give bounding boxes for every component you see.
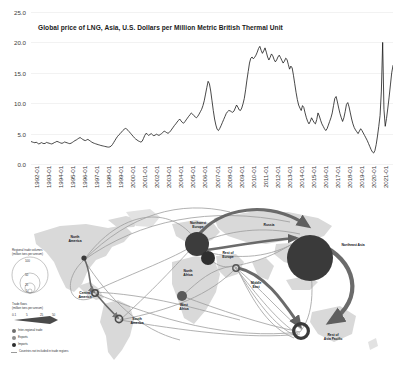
- y-axis-tick: 15.0: [14, 69, 26, 76]
- x-axis-tick: 2007-01: [214, 166, 221, 188]
- legend-flow-scale-1: 5: [26, 314, 28, 318]
- legend-key-imports: Imports: [18, 343, 78, 347]
- x-axis-tick: 1992-01: [33, 166, 40, 188]
- map-label-middle-east: Middle East: [244, 282, 268, 290]
- legend-bubble-value-5: 5: [26, 290, 28, 294]
- x-axis-tick: 2016-01: [322, 166, 329, 188]
- y-axis-tick: 20.0: [14, 39, 26, 46]
- price-line-series: [31, 12, 393, 164]
- legend-bubble-value-100: 100: [25, 260, 30, 264]
- x-axis-tick: 2011-01: [262, 166, 269, 188]
- legend-flow-scale-2: 25: [40, 314, 43, 318]
- x-axis-tick: 2019-01: [358, 166, 365, 188]
- map-label-central-america: Central America: [72, 292, 98, 300]
- x-axis-tick: 2003-01: [165, 166, 172, 188]
- gridline: [31, 164, 393, 165]
- y-axis-tick: 10.0: [14, 100, 26, 107]
- legend-bubble-value-25: 25: [25, 284, 28, 288]
- x-axis-tick: 2002-01: [153, 166, 160, 188]
- map-label-west-africa: West Africa: [172, 304, 196, 312]
- x-axis-tick: 2005-01: [189, 166, 196, 188]
- legend-flow-scale-0: 0.1: [12, 314, 16, 318]
- x-axis-tick: 2018-01: [346, 166, 353, 188]
- legend-key-dot-exports: [12, 336, 16, 340]
- y-axis: 0.05.010.015.020.025.0: [0, 12, 29, 164]
- legend-key-exports: Exports: [18, 336, 78, 340]
- x-axis-tick: 2008-01: [226, 166, 233, 188]
- x-axis-tick: 1997-01: [93, 166, 100, 188]
- legend-key-inter-regional: Inter-regional trade: [18, 329, 78, 333]
- y-axis-tick: 0.0: [17, 161, 26, 168]
- map-label-russia: Russia: [256, 224, 282, 228]
- x-axis-tick: 2006-01: [201, 166, 208, 188]
- x-axis-tick: 2001-01: [141, 166, 148, 188]
- x-axis-tick: 1994-01: [57, 166, 64, 188]
- legend-footnote: Countries not included in trade regions: [19, 350, 97, 354]
- x-axis-tick: 2004-01: [177, 166, 184, 188]
- lng-trade-flow-map-panel: North America Central America South Amer…: [0, 200, 396, 376]
- legend-bubble-value-50: 50: [25, 274, 28, 278]
- y-axis-tick: 5.0: [17, 130, 26, 137]
- legend-key-dash-not-included: [11, 352, 17, 353]
- x-axis-tick: 1999-01: [117, 166, 124, 188]
- map-label-north-africa: North Africa: [176, 270, 200, 278]
- map-label-south-america: South America: [124, 318, 150, 326]
- x-axis-tick: 1993-01: [45, 166, 52, 188]
- x-axis-tick: 2014-01: [298, 166, 305, 188]
- y-axis-tick: 25.0: [14, 9, 26, 16]
- x-axis-tick: 2010-01: [250, 166, 257, 188]
- x-axis-tick: 2020-01: [370, 166, 377, 188]
- bubble-north-america: [81, 255, 86, 260]
- x-axis-tick: 2017-01: [334, 166, 341, 188]
- map-label-north-america: North America: [62, 236, 88, 244]
- x-axis-tick: 2013-01: [286, 166, 293, 188]
- legend-key-dot-imports: [12, 343, 16, 347]
- legend-flow-scale-3: 50: [52, 314, 55, 318]
- x-axis-tick: 2009-01: [238, 166, 245, 188]
- map-label-northwest-europe: Northwest Europe: [182, 222, 214, 230]
- x-axis-tick: 2012-01: [274, 166, 281, 188]
- x-axis-tick: 2015-01: [310, 166, 317, 188]
- x-axis-tick: 2000-01: [129, 166, 136, 188]
- map-label-rest-of-asia-pacific: Rest of Asia Pacific: [318, 334, 348, 342]
- x-axis: 1992-011993-011994-011995-011996-011997-…: [31, 166, 393, 200]
- x-axis-tick: 2021-01: [382, 166, 389, 188]
- bubble-rest-of-europe: [201, 251, 215, 265]
- map-label-rest-of-europe: Rest of Europe: [216, 252, 240, 260]
- chart-plot-area: [31, 12, 393, 164]
- x-axis-tick: 1998-01: [105, 166, 112, 188]
- legend-bubble-subtitle: (million tons per annum): [12, 253, 68, 257]
- legend-bubble-scale: [12, 257, 48, 293]
- legend-flow-subtitle: (million tons per annum): [12, 307, 68, 311]
- x-axis-tick: 1996-01: [81, 166, 88, 188]
- bubble-northeast-asia: [287, 235, 333, 281]
- lng-price-chart-panel: Global price of LNG, Asia, U.S. Dollars …: [0, 0, 396, 200]
- map-label-northeast-asia: Northeast Asia: [332, 244, 374, 248]
- legend-key-dot-inter-regional: [12, 329, 16, 333]
- x-axis-tick: 1995-01: [69, 166, 76, 188]
- bubble-west-africa: [177, 291, 187, 301]
